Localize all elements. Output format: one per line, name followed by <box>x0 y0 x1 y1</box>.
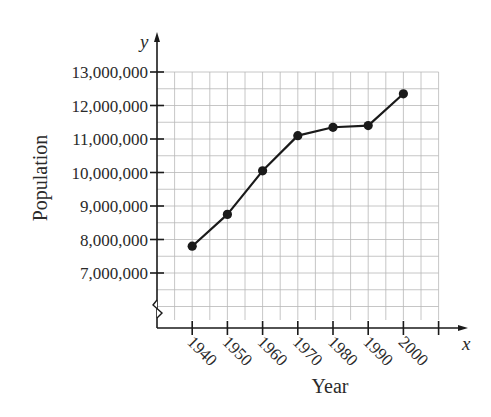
y-tick-label: 11,000,000 <box>72 130 148 149</box>
y-tick-label: 7,000,000 <box>80 264 148 283</box>
x-tick-label: 1950 <box>219 332 256 369</box>
x-tick-label: 1940 <box>183 332 220 369</box>
y-tick-label: 12,000,000 <box>72 97 149 116</box>
data-point-marker <box>364 121 373 130</box>
y-tick-label: 10,000,000 <box>72 164 149 183</box>
y-tick-label: 8,000,000 <box>80 231 148 250</box>
x-axis-arrow-icon <box>458 325 468 331</box>
x-tick-label: 1970 <box>289 332 326 369</box>
population-line-chart: 7,000,0008,000,0009,000,00010,000,00011,… <box>0 0 491 417</box>
data-point-marker <box>399 89 408 98</box>
y-tick-label: 13,000,000 <box>72 63 149 82</box>
data-point-marker <box>223 210 232 219</box>
y-tick-label: 9,000,000 <box>80 197 148 216</box>
y-axis-title: Population <box>29 135 52 222</box>
x-axis-variable: x <box>461 333 471 354</box>
grid <box>157 72 439 320</box>
x-tick-label: 2000 <box>395 332 432 369</box>
data-point-marker <box>328 123 337 132</box>
y-ticks: 7,000,0008,000,0009,000,00010,000,00011,… <box>72 63 165 283</box>
data-point-marker <box>258 166 267 175</box>
x-tick-label: 1960 <box>254 332 291 369</box>
data-point-marker <box>188 242 197 251</box>
x-axis-title: Year <box>312 375 349 397</box>
x-tick-label: 1980 <box>324 332 361 369</box>
data-point-marker <box>293 131 302 140</box>
y-axis-variable: y <box>138 31 149 52</box>
x-tick-label: 1990 <box>359 332 396 369</box>
y-axis-arrow-icon <box>154 32 160 42</box>
